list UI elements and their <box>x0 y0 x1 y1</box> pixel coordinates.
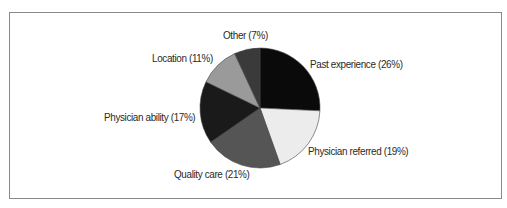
label-quality-care: Quality care (21%) <box>174 168 250 180</box>
label-past-experience: Past experience (26%) <box>310 58 403 70</box>
label-physician-ability: Physician ability (17%) <box>104 111 195 123</box>
label-location: Location (11%) <box>152 52 213 64</box>
label-other: Other (7%) <box>223 29 268 41</box>
label-physician-referred: Physician referred (19%) <box>308 145 408 157</box>
pie-slices <box>200 48 320 168</box>
